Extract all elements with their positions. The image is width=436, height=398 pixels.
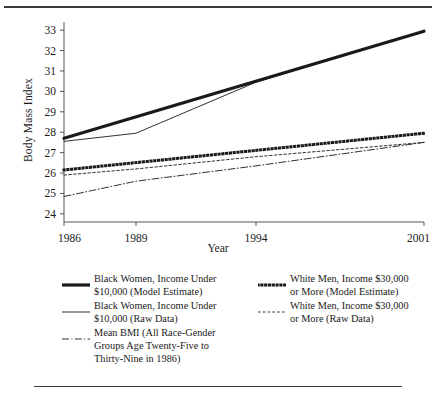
- top-divider-rule: [4, 6, 432, 8]
- legend-label-line1: Black Women, Income Under: [94, 299, 252, 312]
- bmi-line-chart: Body Mass Index 242526272829303132331986…: [0, 10, 436, 260]
- svg-text:29: 29: [45, 106, 57, 118]
- legend-item: White Men, Income $30,000 or More (Model…: [258, 272, 436, 298]
- legend-swatch-thick-solid-icon: [62, 278, 90, 284]
- svg-text:28: 28: [45, 126, 57, 138]
- svg-text:25: 25: [45, 187, 57, 199]
- legend-label-line2: $10,000 (Model Estimate): [94, 285, 252, 298]
- x-axis-title: Year: [0, 242, 436, 254]
- legend-swatch-thin-solid-icon: [62, 305, 90, 311]
- legend-label-line2: Groups Age Twenty-Five to: [94, 339, 252, 352]
- legend-item: Black Women, Income Under $10,000 (Model…: [62, 272, 252, 298]
- legend-item: Mean BMI (All Race-Gender Groups Age Twe…: [62, 326, 252, 366]
- legend-label-line1: Black Women, Income Under: [94, 272, 252, 285]
- legend-label-line3: Thirty-Nine in 1986): [94, 352, 252, 365]
- plot-area: 242526272829303132331986198919942001: [0, 10, 436, 260]
- svg-text:24: 24: [45, 208, 57, 220]
- svg-text:27: 27: [45, 147, 57, 159]
- legend-label-line1: Mean BMI (All Race-Gender: [94, 326, 252, 339]
- svg-text:26: 26: [45, 167, 57, 179]
- legend-label-line2: $10,000 (Raw Data): [94, 312, 252, 325]
- legend-item: Black Women, Income Under $10,000 (Raw D…: [62, 299, 252, 325]
- chart-legend: Black Women, Income Under $10,000 (Model…: [0, 272, 436, 384]
- svg-text:30: 30: [45, 85, 57, 97]
- svg-text:32: 32: [45, 45, 57, 57]
- legend-label-line2: or More (Raw Data): [290, 312, 436, 325]
- legend-label-line2: or More (Model Estimate): [290, 285, 436, 298]
- legend-item: White Men, Income $30,000 or More (Raw D…: [258, 299, 436, 325]
- bottom-divider-rule: [34, 386, 402, 387]
- legend-label-line1: White Men, Income $30,000: [290, 272, 436, 285]
- legend-column-right: White Men, Income $30,000 or More (Model…: [258, 272, 436, 326]
- svg-text:31: 31: [45, 65, 57, 77]
- legend-swatch-thick-dotted-icon: [258, 278, 286, 284]
- legend-swatch-thin-dashed-icon: [258, 305, 286, 311]
- legend-swatch-dashdot-icon: [62, 332, 90, 338]
- legend-label-line1: White Men, Income $30,000: [290, 299, 436, 312]
- legend-column-left: Black Women, Income Under $10,000 (Model…: [62, 272, 252, 366]
- svg-text:33: 33: [45, 24, 57, 36]
